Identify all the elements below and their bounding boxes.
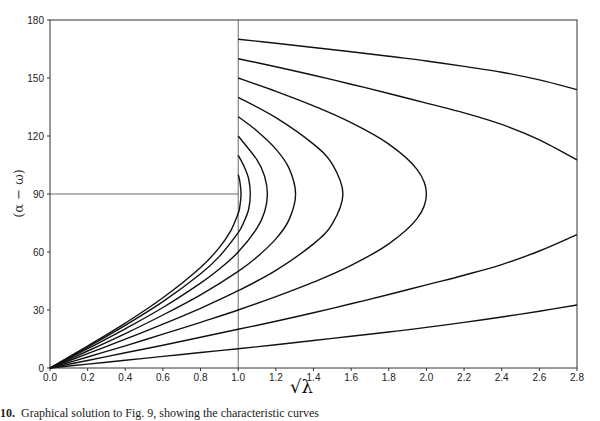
figure-caption: 10. Graphical solution to Fig. 9, showin… [0, 406, 319, 421]
y-axis-label: (α − ω) [11, 169, 26, 218]
curves [50, 39, 577, 368]
x-tick-label: 1.2 [269, 372, 283, 383]
x-tick-label: 0.6 [156, 372, 170, 383]
y-tick-label: 150 [27, 73, 44, 84]
x-tick-label: 1.8 [382, 372, 396, 383]
y-tick-label: 120 [27, 131, 44, 142]
curve-160 [238, 59, 577, 160]
y-tick-label: 0 [38, 363, 44, 374]
y-tick-label: 90 [33, 189, 45, 200]
x-tick-label: 2.4 [495, 372, 509, 383]
x-axis-label: √λ [290, 376, 313, 397]
x-tick-label: 2.8 [570, 372, 584, 383]
caption-text: Graphical solution to Fig. 9, showing th… [21, 406, 319, 420]
x-tick-label: 2.0 [419, 372, 433, 383]
x-tick-label: 0.8 [194, 372, 208, 383]
x-tick-label: 1.6 [344, 372, 358, 383]
caption-number: 10. [0, 406, 15, 420]
x-tick-label: 1.0 [231, 372, 245, 383]
x-tick-label: 0.2 [81, 372, 95, 383]
curve-10 [50, 305, 577, 368]
curve-20 [50, 235, 577, 368]
x-tick-label: 0.4 [118, 372, 132, 383]
x-tick-label: 0.0 [43, 372, 57, 383]
y-tick-label: 180 [27, 15, 44, 26]
curve-40-140 [50, 97, 343, 368]
y-tick-label: 30 [33, 305, 45, 316]
curve-50-130 [50, 117, 296, 368]
x-tick-label: 2.6 [532, 372, 546, 383]
y-tick-label: 60 [33, 247, 45, 258]
curve-70-110 [50, 155, 250, 368]
reference-lines [50, 20, 238, 368]
curve-60-120 [50, 136, 267, 368]
curve-170 [238, 39, 577, 89]
axes: 0.00.20.40.60.81.01.21.41.61.82.02.22.42… [27, 15, 584, 384]
x-tick-label: 2.2 [457, 372, 471, 383]
